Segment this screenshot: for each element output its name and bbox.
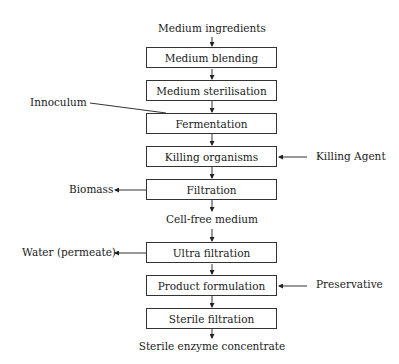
step-product-formulation: Product formulation bbox=[146, 275, 277, 296]
output-label: Sterile enzyme concentrate bbox=[139, 340, 286, 352]
preservative-label: Preservative bbox=[316, 278, 383, 290]
step-sterile-filtration: Sterile filtration bbox=[146, 308, 277, 329]
killing-agent-label: Killing Agent bbox=[316, 150, 386, 162]
step-killing-organisms: Killing organisms bbox=[146, 146, 277, 167]
biomass-label: Biomass bbox=[69, 183, 113, 195]
step-fermentation: Fermentation bbox=[146, 113, 277, 134]
step-medium-blending: Medium blending bbox=[146, 47, 277, 68]
flowchart-canvas: Medium ingredients Medium blending Mediu… bbox=[0, 0, 399, 364]
water-permeate-label: Water (permeate) bbox=[22, 246, 116, 258]
intermediate-label: Cell-free medium bbox=[166, 213, 258, 225]
input-label: Medium ingredients bbox=[158, 22, 266, 34]
step-medium-sterilisation: Medium sterilisation bbox=[146, 80, 277, 101]
innoculum-label: Innoculum bbox=[30, 96, 87, 108]
step-filtration: Filtration bbox=[146, 179, 277, 200]
step-ultra-filtration: Ultra filtration bbox=[146, 242, 277, 263]
